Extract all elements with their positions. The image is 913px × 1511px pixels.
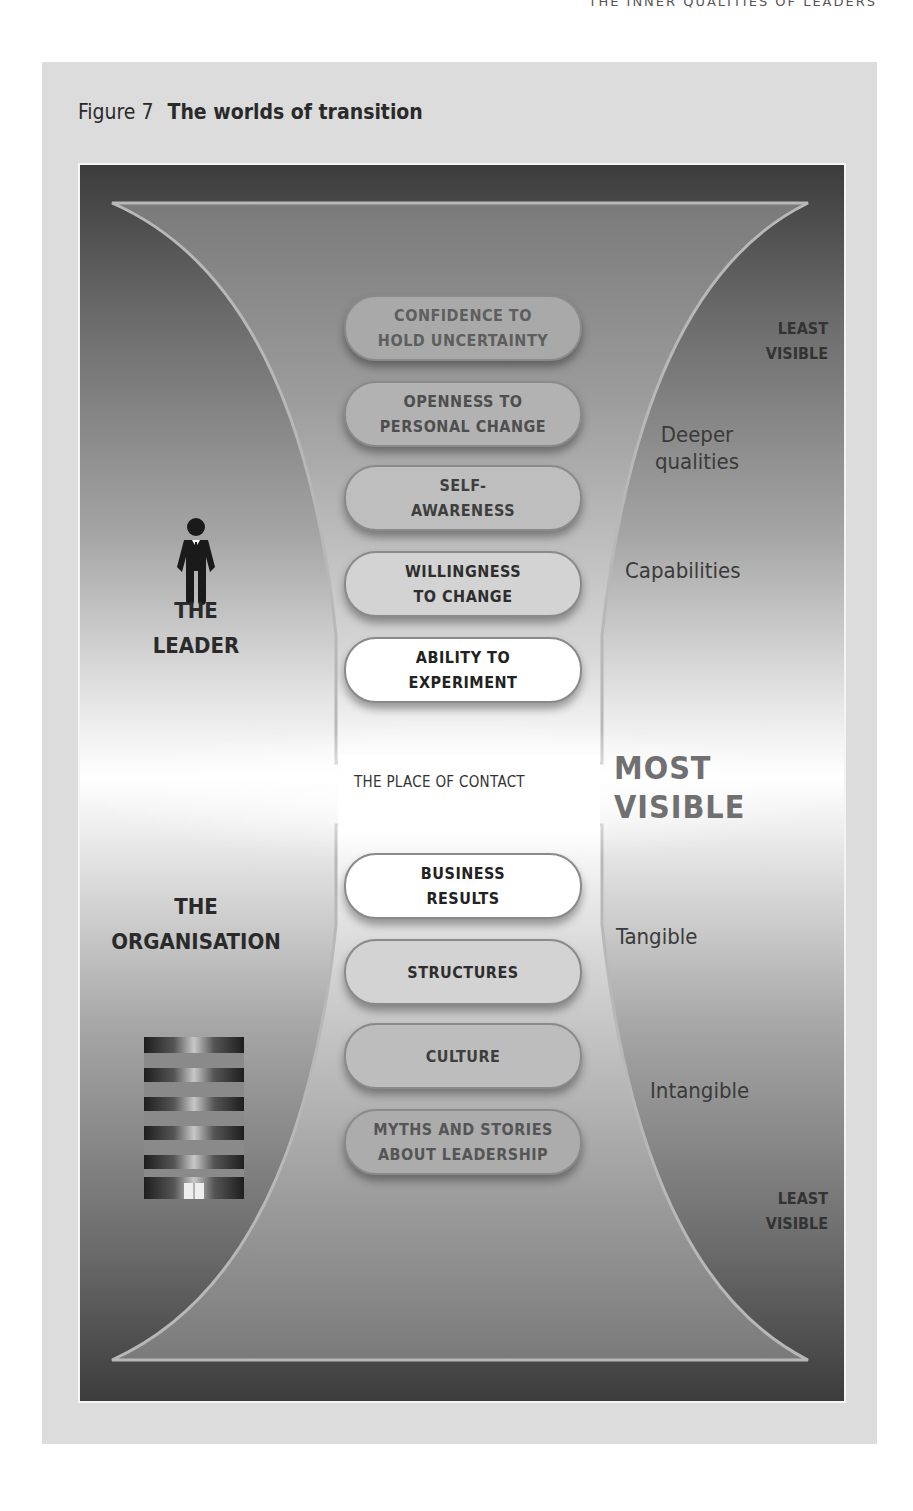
intangible-label: Intangible	[650, 1077, 749, 1104]
office-building-icon	[144, 1037, 244, 1199]
leader-label: THE LEADER	[144, 593, 248, 663]
org-pill-myths: MYTHS AND STORIES ABOUT LEADERSHIP	[344, 1109, 582, 1175]
place-of-contact-label: THE PLACE OF CONTACT	[354, 773, 525, 791]
pill-label: OPENNESS TO PERSONAL CHANGE	[380, 389, 546, 439]
quality-pill-self-awareness: SELF- AWARENESS	[344, 465, 582, 531]
capability-pill-willingness: WILLINGNESS TO CHANGE	[344, 551, 582, 617]
organisation-label: THE ORGANISATION	[90, 889, 302, 959]
person-in-suit-icon	[177, 518, 215, 605]
pill-label: CONFIDENCE TO HOLD UNCERTAINTY	[378, 303, 548, 353]
least-visible-top: LEAST VISIBLE	[766, 316, 828, 366]
quality-pill-confidence: CONFIDENCE TO HOLD UNCERTAINTY	[344, 295, 582, 361]
most-visible-label: MOST VISIBLE	[614, 749, 745, 827]
figure-title: The worlds of transition	[168, 100, 423, 124]
org-pill-structures: STRUCTURES	[344, 939, 582, 1005]
pill-label: STRUCTURES	[407, 960, 518, 985]
pill-label: BUSINESS RESULTS	[421, 861, 505, 911]
capability-pill-ability: ABILITY TO EXPERIMENT	[344, 637, 582, 703]
deeper-qualities-label: Deeper qualities	[655, 421, 739, 475]
pill-label: SELF- AWARENESS	[411, 473, 515, 523]
pill-label: CULTURE	[426, 1044, 501, 1069]
figure-number: Figure 7	[78, 100, 154, 124]
figure-caption: Figure 7 The worlds of transition	[78, 100, 423, 124]
least-visible-bottom: LEAST VISIBLE	[766, 1186, 828, 1236]
pill-label: ABILITY TO EXPERIMENT	[409, 645, 518, 695]
org-pill-business-results: BUSINESS RESULTS	[344, 853, 582, 919]
pill-label: WILLINGNESS TO CHANGE	[405, 559, 521, 609]
diagram-frame: CONFIDENCE TO HOLD UNCERTAINTY OPENNESS …	[78, 163, 846, 1403]
figure-panel: Figure 7 The worlds of transition	[42, 62, 877, 1444]
capabilities-label: Capabilities	[625, 557, 740, 584]
pill-label: MYTHS AND STORIES ABOUT LEADERSHIP	[373, 1117, 553, 1167]
quality-pill-openness: OPENNESS TO PERSONAL CHANGE	[344, 381, 582, 447]
org-pill-culture: CULTURE	[344, 1023, 582, 1089]
tangible-label: Tangible	[616, 923, 697, 950]
running-header: The Inner Qualities of Leaders	[588, 0, 877, 9]
